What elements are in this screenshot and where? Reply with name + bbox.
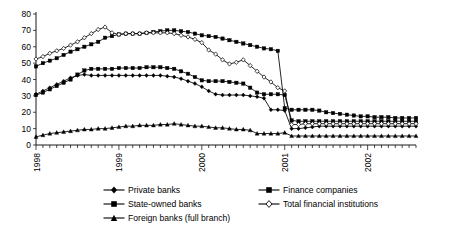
data-point [69,50,72,53]
data-point [221,93,225,97]
data-point [55,49,59,53]
chart-legend: Private banks State-owned banks Foreign … [0,183,450,229]
data-point [248,86,251,89]
data-point [55,84,58,87]
data-point [387,115,390,118]
data-point [41,61,44,64]
data-point [214,35,217,38]
data-point [214,79,217,82]
chart-figure: 01020304050607080 19981999200020012002 P… [0,0,450,229]
data-point [214,92,218,96]
data-point [165,74,169,78]
data-point [283,106,286,109]
svg-text:2000: 2000 [197,153,207,172]
data-point [234,60,238,64]
data-point [262,47,265,50]
data-point [145,73,149,77]
data-point [131,66,134,69]
data-point [255,91,258,94]
data-point [290,108,293,111]
svg-text:10: 10 [22,124,32,134]
data-point [248,94,252,98]
data-point [41,91,44,94]
legend-label-finance-companies: Finance companies [283,184,358,196]
data-point [345,113,348,116]
data-point [304,108,307,111]
data-point [172,75,176,79]
data-point [338,112,341,115]
data-point [90,43,93,46]
data-point [242,82,245,85]
data-point [207,89,211,93]
data-point [48,59,51,62]
data-point [179,70,182,73]
data-point [200,34,203,37]
svg-text:80: 80 [22,9,32,19]
line-chart-plot: 01020304050607080 19981999200020012002 [0,0,450,185]
data-point [96,73,100,77]
data-point [69,43,73,47]
data-point [207,79,210,82]
svg-text:70: 70 [22,25,32,35]
legend-item-finance-companies[interactable]: Finance companies [258,183,378,197]
data-point [200,85,204,89]
legend-item-total-financial-institutions[interactable]: Total financial institutions [258,197,378,211]
data-point [269,48,272,51]
legend-label-private-banks: Private banks [128,184,180,196]
data-point [89,73,93,77]
data-point [62,81,65,84]
data-point [117,73,121,77]
data-point [172,67,175,70]
legend-item-foreign-banks[interactable]: Foreign banks (full branch) [103,211,230,225]
data-point [276,108,280,112]
svg-text:50: 50 [22,58,32,68]
data-point [186,72,189,75]
svg-text:20: 20 [22,107,32,117]
legend-key-state-owned-banks [103,198,125,210]
data-point [76,73,79,76]
svg-text:30: 30 [22,91,32,101]
data-point [276,93,279,96]
data-point [75,40,79,44]
legend-item-private-banks[interactable]: Private banks [103,183,230,197]
data-point [83,45,86,48]
data-point [179,33,183,37]
data-point [179,29,182,32]
data-point [221,37,224,40]
data-point [55,57,58,60]
data-point [193,37,197,41]
data-point [235,40,238,43]
legend-label-foreign-banks: Foreign banks (full branch) [128,212,230,224]
data-point [34,93,37,96]
svg-text:2001: 2001 [280,153,290,172]
data-point [145,66,148,69]
data-point [407,116,410,119]
data-point [48,88,51,91]
data-point [235,81,238,84]
data-point [318,109,321,112]
data-point [394,116,397,119]
data-point [62,46,66,50]
data-point [62,53,65,56]
data-point [96,67,99,70]
y-axis-tick-labels: 01020304050607080 [22,9,32,150]
data-point [110,67,113,70]
data-point [166,66,169,69]
data-point [90,67,93,70]
data-point [380,115,383,118]
legend-key-total-financial-institutions [258,198,280,210]
data-point [138,66,141,69]
data-point [400,116,403,119]
data-point [311,108,314,111]
data-point [96,27,100,31]
data-point [34,57,38,61]
legend-item-state-owned-banks[interactable]: State-owned banks [103,197,230,211]
data-point [262,93,265,96]
legend-key-foreign-banks [103,212,125,224]
data-point [159,73,163,77]
data-point [241,93,245,97]
legend-label-state-owned-banks: State-owned banks [128,198,202,210]
data-point [110,73,114,77]
data-point [331,111,334,114]
legend-column-left: Private banks State-owned banks Foreign … [103,183,230,225]
